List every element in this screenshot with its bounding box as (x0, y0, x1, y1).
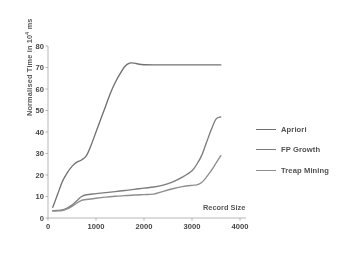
y-axis-title: Normalised Time in 104 ms (24, 7, 34, 127)
y-axis-tick-label: 40 (22, 128, 44, 137)
legend-item-apriori[interactable]: Apriori (256, 119, 352, 140)
y-axis-title-exponent: 4 (24, 32, 30, 35)
line-chart-figure: 01020304050607080 01000200030004000 Norm… (0, 0, 352, 253)
chart-legend: AprioriFP GrowthTreap Mining (256, 119, 352, 181)
series-line-fp-growth (53, 117, 221, 211)
x-axis-tick-label: 0 (28, 222, 68, 231)
y-axis-tick-label: 20 (22, 171, 44, 180)
legend-item-treap-mining[interactable]: Treap Mining (256, 160, 352, 181)
y-axis-tick-label: 30 (22, 149, 44, 158)
x-axis-tick-label: 4000 (220, 222, 260, 231)
legend-item-label: FP Growth (281, 145, 320, 154)
y-axis-title-suffix: ms (25, 18, 34, 31)
legend-line-swatch (256, 129, 276, 130)
x-axis-tick-label: 2000 (124, 222, 164, 231)
legend-line-swatch (256, 149, 276, 150)
legend-line-swatch (256, 170, 276, 171)
y-axis-tick-labels: 01020304050607080 (0, 0, 44, 253)
legend-item-label: Treap Mining (281, 166, 329, 175)
y-axis-tick-label: 10 (22, 192, 44, 201)
chart-series-lines (53, 63, 221, 211)
legend-item-fp-growth[interactable]: FP Growth (256, 140, 352, 161)
legend-item-label: Apriori (281, 125, 307, 134)
series-line-treap-mining (53, 156, 221, 211)
x-axis-tick-label: 1000 (76, 222, 116, 231)
y-axis-title-prefix: Normalised Time in 10 (25, 35, 34, 116)
x-axis-title: Record Size (203, 203, 245, 212)
x-axis-tick-label: 3000 (172, 222, 212, 231)
